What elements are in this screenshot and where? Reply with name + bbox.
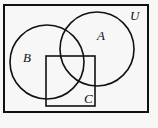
- set-b-circle: [10, 25, 84, 99]
- venn-diagram: U A B C: [0, 0, 158, 128]
- set-a-circle: [60, 12, 134, 86]
- universe-label: U: [130, 8, 141, 23]
- set-a-label: A: [96, 28, 105, 43]
- set-c-label: C: [84, 91, 93, 106]
- set-b-label: B: [23, 50, 31, 65]
